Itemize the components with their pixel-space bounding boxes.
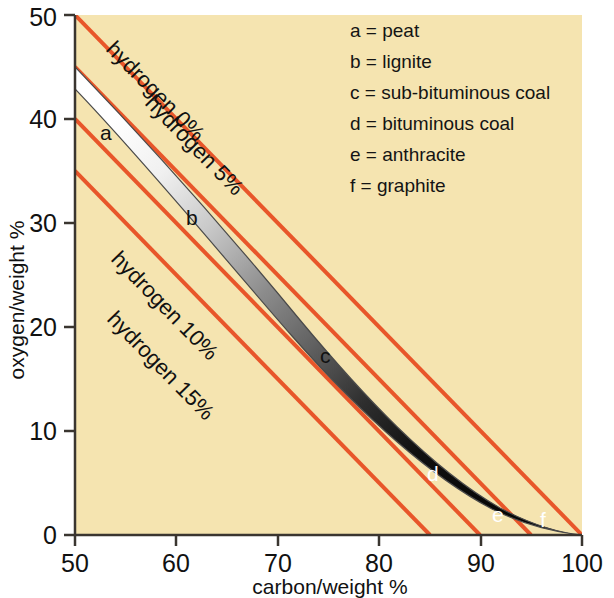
legend-item-d: d = bituminous coal [350,113,514,134]
y-tick-label-50: 50 [29,3,57,31]
y-tick-label-0: 0 [43,521,57,549]
legend-item-b: b = lignite [350,51,432,72]
band-letter-c: c [320,344,331,367]
coal-classification-figure: hydrogen 0% hydrogen 5% hydrogen 10% hyd… [0,0,614,598]
y-tick-label-40: 40 [29,105,57,133]
y-axis-ticks [64,15,75,535]
legend-item-e: e = anthracite [350,144,466,165]
x-axis-ticks [75,535,582,546]
legend-item-f: f = graphite [350,175,446,196]
y-axis-title: oxygen/weight % [5,221,28,380]
x-tick-label-90: 90 [467,549,495,577]
x-tick-label-100: 100 [561,549,603,577]
x-tick-label-50: 50 [61,549,89,577]
band-letter-d: d [427,462,439,485]
y-tick-label-30: 30 [29,209,57,237]
x-tick-label-80: 80 [365,549,393,577]
legend-item-a: a = peat [350,20,420,41]
x-tick-label-70: 70 [264,549,292,577]
y-tick-label-20: 20 [29,313,57,341]
x-tick-label-60: 60 [162,549,190,577]
legend-item-c: c = sub-bituminous coal [350,82,550,103]
band-letter-f: f [540,508,546,531]
band-letter-b: b [186,206,198,229]
x-axis-title: carbon/weight % [252,575,407,598]
band-letter-e: e [492,503,504,526]
band-letter-a: a [100,121,112,144]
coalification-chart: hydrogen 0% hydrogen 5% hydrogen 10% hyd… [0,0,614,598]
y-tick-label-10: 10 [29,417,57,445]
